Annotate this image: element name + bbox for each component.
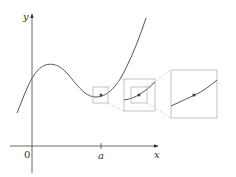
local-linearity-diagram: y x 0 a xyxy=(0,0,236,177)
tick-label-a: a xyxy=(98,150,104,161)
dashed-connectors-1 xyxy=(108,79,124,111)
point-a xyxy=(100,94,103,97)
origin-label: 0 xyxy=(24,149,30,160)
point-a-zoom-2 xyxy=(192,93,195,96)
x-axis-label: x xyxy=(154,149,160,160)
point-a-zoom-1 xyxy=(138,94,141,97)
zoom-box-2 xyxy=(124,79,155,111)
zoom-box-1 xyxy=(93,87,108,103)
zoom-box-3 xyxy=(171,70,217,118)
y-axis-label: y xyxy=(22,11,29,22)
